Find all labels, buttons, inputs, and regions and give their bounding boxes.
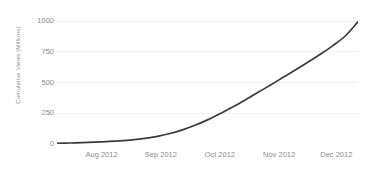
- plot-svg: [57, 21, 358, 144]
- y-axis-tick-label: 0: [22, 140, 54, 148]
- gridlines: [57, 21, 358, 113]
- cumulative-views-line-chart: Cumulative Views (Millions) 025050075010…: [0, 0, 369, 176]
- x-axis-tick-label: Nov 2012: [263, 150, 295, 160]
- x-axis-tick-label: Oct 2012: [205, 150, 235, 160]
- x-axis-tick-labels: Aug 2012Sep 2012Oct 2012Nov 2012Dec 2012: [57, 150, 358, 164]
- y-axis-tick-label: 750: [22, 48, 54, 56]
- y-axis-tick-label: 500: [22, 79, 54, 87]
- x-axis-tick-label: Sep 2012: [145, 150, 177, 160]
- plot-area: [57, 21, 358, 144]
- x-axis-tick-label: Aug 2012: [85, 150, 117, 160]
- y-axis-tick-label: 250: [22, 109, 54, 117]
- x-axis-tick-label: Dec 2012: [320, 150, 352, 160]
- y-axis-tick-label: 1000: [22, 17, 54, 25]
- y-axis-tick-labels: 02505007501000: [22, 0, 54, 176]
